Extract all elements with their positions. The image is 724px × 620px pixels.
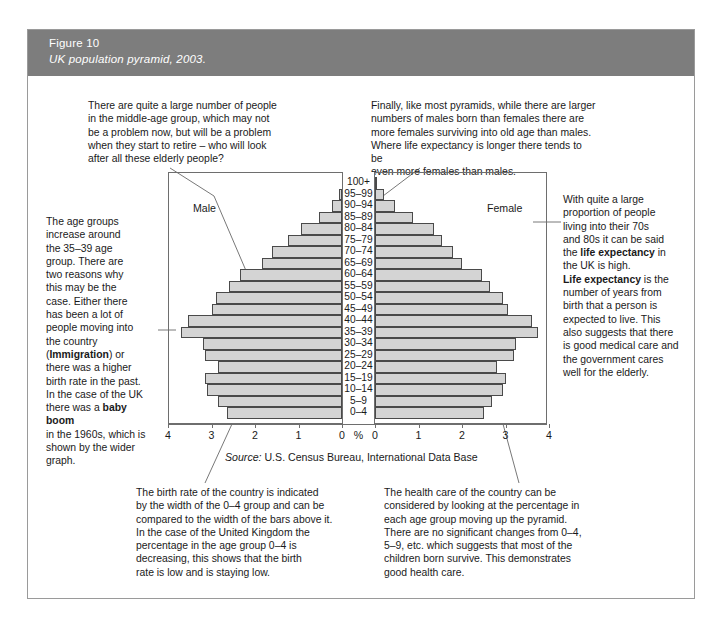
pyramid-x-axis: 4321001234% [168,424,547,450]
pyramid-age-label: 40–44 [331,314,387,326]
pyramid-bar-male [240,269,342,281]
chart-source: Source: U.S. Census Bureau, Internationa… [225,451,478,463]
source-text: U.S. Census Bureau, International Data B… [264,451,477,463]
figure-number: Figure 10 [49,37,99,49]
x-axis-label-male-4: 4 [165,429,171,441]
pyramid-age-label: 100+ [331,176,387,188]
pyramid-age-label: 95–99 [331,188,387,200]
pyramid-bar-female [375,304,508,316]
pyramid-bar-female [375,373,506,385]
x-axis-tick [549,424,550,428]
pyramid-bar-female [375,396,492,408]
pyramid-row: 0–4 [168,407,547,419]
figure-caption: UK population pyramid, 2003. [49,53,206,65]
x-axis-label-female-0: 0 [372,429,378,441]
pyramid-bar-female [375,361,497,373]
x-axis-tick [419,424,420,428]
figure-page: Figure 10 UK population pyramid, 2003. T… [0,0,724,620]
pyramid-age-label: 90–94 [331,199,387,211]
annotation-birth-rate: The birth rate of the country is indicat… [136,486,386,579]
x-axis-label-female-4: 4 [546,429,552,441]
pyramid-age-label: 45–49 [331,303,387,315]
x-axis-tick [375,424,376,428]
x-axis-label-male-0: 0 [339,429,345,441]
pyramid-bar-female [375,258,462,270]
x-axis-label-female-1: 1 [416,429,422,441]
x-axis-tick [342,424,343,428]
x-axis-line [168,424,547,425]
pyramid-bars: 100+95–9990–9485–8980–8475–7970–7465–696… [168,177,547,419]
pyramid-bar-female [375,338,516,350]
annotation-age-groups-increase: The age groupsincrease aroundthe 35–39 a… [46,215,158,468]
x-axis-percent-symbol: % [354,429,363,441]
pyramid-bar-male [205,350,342,362]
pyramid-bar-female [375,246,453,258]
pyramid-bar-female [375,327,538,339]
pyramid-age-label: 60–64 [331,268,387,280]
pyramid-age-label: 10–14 [331,383,387,395]
pyramid-age-label: 55–59 [331,280,387,292]
pyramid-bar-female [375,269,482,281]
pyramid-age-label: 35–39 [331,326,387,338]
annotation-health-care: The health care of the country can be co… [384,486,594,579]
annotation-female-survival: Finally, like most pyramids, while there… [371,99,596,179]
pyramid-age-label: 70–74 [331,245,387,257]
pyramid-bar-male [181,327,342,339]
pyramid-bar-male [227,407,342,419]
pyramid-bar-female [375,281,490,293]
source-prefix: Source: [225,451,262,463]
x-axis-tick [506,424,507,428]
pyramid-age-label: 80–84 [331,222,387,234]
x-axis-tick [212,424,213,428]
pyramid-age-label: 20–24 [331,360,387,372]
pyramid-bar-male [229,281,342,293]
pyramid-bar-male [203,338,342,350]
pyramid-bar-female [375,350,514,362]
x-axis-tick [168,424,169,428]
annotation-life-expectancy: With quite a largeproportion of peopleli… [563,193,691,379]
x-axis-label-male-2: 2 [252,429,258,441]
x-axis-tick [255,424,256,428]
pyramid-bar-female [375,292,503,304]
pyramid-bar-male [188,315,342,327]
figure-title-banner: Figure 10 UK population pyramid, 2003. [28,30,694,76]
pyramid-bar-female [375,315,532,327]
pyramid-age-label: 0–4 [331,406,387,418]
pyramid-bar-female [375,407,484,419]
pyramid-age-label: 85–89 [331,211,387,223]
pyramid-age-label: 65–69 [331,257,387,269]
pyramid-bar-male [218,396,342,408]
x-axis-tick [462,424,463,428]
pyramid-bar-male [212,304,343,316]
pyramid-age-label: 25–29 [331,349,387,361]
x-axis-label-female-3: 3 [503,429,509,441]
x-axis-label-male-3: 3 [209,429,215,441]
x-axis-label-male-1: 1 [296,429,302,441]
pyramid-bar-male [216,292,342,304]
pyramid-age-label: 15–19 [331,372,387,384]
pyramid-age-label: 5–9 [331,395,387,407]
pyramid-age-label: 30–34 [331,337,387,349]
pyramid-bar-male [205,373,342,385]
x-axis-label-female-2: 2 [459,429,465,441]
pyramid-age-label: 50–54 [331,291,387,303]
pyramid-bar-male [207,384,342,396]
annotation-middle-age-group: There are quite a large number of people… [88,99,303,165]
pyramid-bar-male [218,361,342,373]
pyramid-age-label: 75–79 [331,234,387,246]
x-axis-tick [299,424,300,428]
pyramid-bar-female [375,384,503,396]
